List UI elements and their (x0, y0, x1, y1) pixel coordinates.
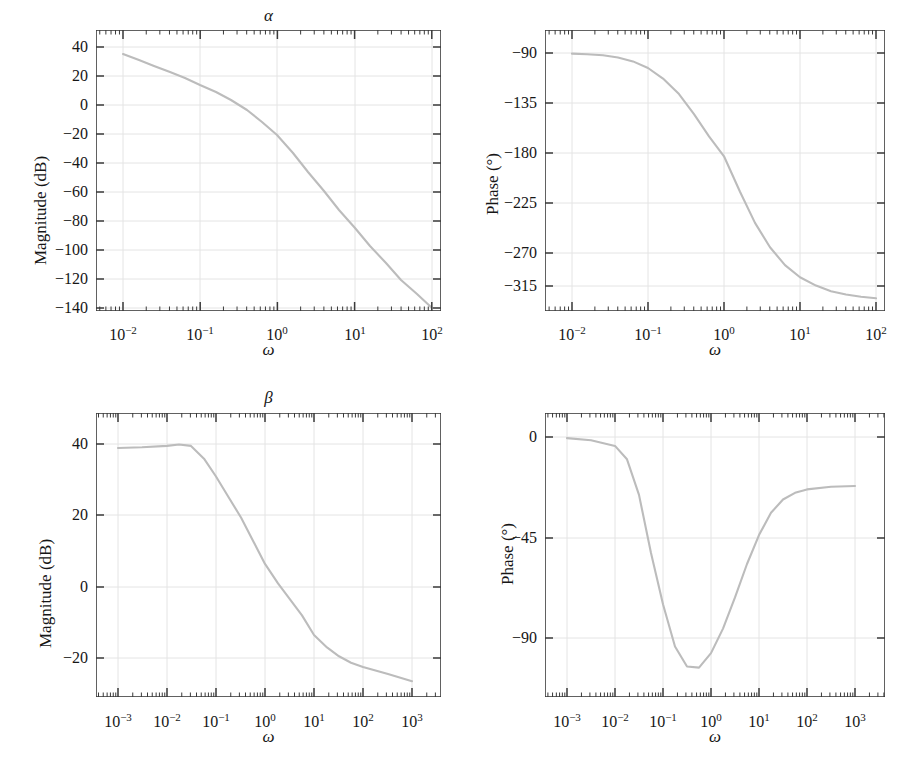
axes-frame (96, 413, 441, 697)
y-major-ticks (96, 47, 441, 308)
ytick-label: −40 (0, 154, 88, 172)
panel-beta-phase (545, 413, 885, 697)
x-minor-ticks (100, 30, 429, 311)
ytick-label: −225 (450, 194, 537, 212)
axes-frame (545, 413, 885, 697)
ytick-label: 20 (0, 67, 88, 85)
ytick-label: 20 (0, 506, 88, 524)
xtick-label: 100 (237, 326, 317, 344)
xtick-label: 101 (315, 326, 395, 344)
xtick-label: 10−1 (160, 326, 240, 344)
ytick-label: 0 (0, 578, 88, 596)
xtick-label: 101 (760, 326, 840, 344)
xtick-label: 10−2 (532, 326, 612, 344)
ytick-label: −90 (455, 629, 537, 647)
ytick-label: 40 (0, 38, 88, 56)
panel-alpha-magnitude (96, 30, 441, 311)
beta-phase-axes (545, 413, 885, 697)
ytick-label: −270 (450, 244, 537, 262)
y-major-ticks (545, 53, 885, 286)
y-major-ticks (96, 444, 441, 658)
ytick-label: 0 (455, 428, 537, 446)
ytick-label: −80 (0, 212, 88, 230)
ytick-label: −135 (450, 94, 537, 112)
gridlines (96, 413, 441, 697)
ytick-label: −140 (0, 299, 88, 317)
ytick-label: 0 (0, 96, 88, 114)
gridlines (96, 30, 441, 311)
xtick-label: 102 (836, 326, 905, 344)
axes-frame (96, 30, 441, 311)
alpha-phase-axes (545, 30, 885, 311)
xtick-label: 103 (815, 713, 895, 731)
panel-alpha-magnitude-title: α (96, 6, 441, 26)
x-minor-ticks (548, 413, 884, 697)
xtick-label: 10−2 (83, 326, 163, 344)
ytick-label: −180 (450, 144, 537, 162)
gridlines (545, 413, 885, 697)
ytick-label: −20 (0, 649, 88, 667)
panel-beta-magnitude-title: β (96, 388, 441, 408)
ytick-label: −20 (0, 125, 88, 143)
ytick-label: −315 (450, 277, 537, 295)
ytick-label: −100 (0, 241, 88, 259)
ytick-label: −60 (0, 183, 88, 201)
ytick-label: 40 (0, 435, 88, 453)
x-minor-ticks (99, 413, 436, 697)
alpha-magnitude-axes (96, 30, 441, 311)
ytick-label: −45 (455, 529, 537, 547)
gridlines (545, 30, 885, 311)
ytick-label: −90 (450, 44, 537, 62)
xtick-label: 10−1 (608, 326, 688, 344)
beta-magnitude-axes (96, 413, 441, 697)
panel-alpha-phase (545, 30, 885, 311)
x-minor-ticks (549, 30, 872, 311)
ytick-label: −120 (0, 270, 88, 288)
xtick-label: 100 (684, 326, 764, 344)
axes-frame (545, 30, 885, 311)
xtick-label: 102 (392, 326, 472, 344)
panel-beta-magnitude (96, 413, 441, 697)
xtick-label: 103 (372, 713, 452, 731)
bode-plot-figure: α ω Magnitude (dB) 40 20 0 −20 −40 −60 −… (0, 0, 905, 781)
